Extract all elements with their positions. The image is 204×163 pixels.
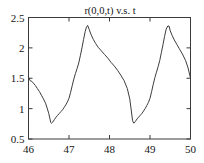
y-tick-label: 1 xyxy=(19,103,25,115)
x-tick-label: 47 xyxy=(64,143,76,155)
y-tick-label: 2 xyxy=(19,42,25,54)
y-tick-label: 0.5 xyxy=(11,133,25,145)
x-tick-label: 48 xyxy=(104,143,116,155)
chart-figure: r(0,0,t) v.s. t 4647484950 0.511.522.5 xyxy=(0,0,204,163)
x-tick-label: 46 xyxy=(23,143,35,155)
x-axis-ticks: 4647484950 xyxy=(23,18,197,156)
x-tick-label: 49 xyxy=(145,143,157,155)
x-tick-label: 50 xyxy=(185,143,197,155)
y-tick-label: 2.5 xyxy=(11,12,25,24)
chart-title: r(0,0,t) v.s. t xyxy=(84,5,135,17)
plot-frame xyxy=(29,18,191,140)
y-axis-ticks: 0.511.522.5 xyxy=(11,12,191,146)
line-chart: r(0,0,t) v.s. t 4647484950 0.511.522.5 xyxy=(0,0,204,163)
y-tick-label: 1.5 xyxy=(11,72,25,84)
data-series-line xyxy=(29,25,191,123)
